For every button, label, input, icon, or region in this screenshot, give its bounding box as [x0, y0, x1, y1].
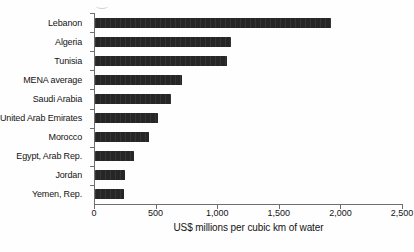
bar-row	[95, 70, 402, 89]
category-label: United Arab Emirates	[0, 108, 88, 127]
bar-row	[95, 32, 402, 51]
y-axis-ticks	[90, 13, 94, 204]
bar	[95, 18, 331, 28]
category-label: Saudi Arabia	[0, 89, 88, 108]
y-tick	[90, 32, 94, 33]
y-tick	[90, 109, 94, 110]
category-label: Lebanon	[0, 13, 88, 32]
x-axis-tick-labels: 05001,0001,5002,0002,500	[94, 208, 402, 219]
y-tick	[90, 70, 94, 71]
y-tick	[90, 166, 94, 167]
y-tick	[90, 89, 94, 90]
x-tick-label: 2,000	[329, 208, 352, 218]
bar-row	[95, 13, 402, 32]
bar-row	[95, 108, 402, 127]
y-tick	[90, 147, 94, 148]
bar-series	[95, 13, 402, 204]
bar-row	[95, 89, 402, 108]
x-tick-label: 0	[91, 208, 96, 218]
bar	[95, 75, 182, 85]
bar	[95, 151, 134, 161]
bar	[95, 94, 171, 104]
category-axis-labels: LebanonAlgeriaTunisiaMENA averageSaudi A…	[0, 13, 88, 204]
category-label: Morocco	[0, 128, 88, 147]
y-tick	[90, 13, 94, 14]
cropped-caption-fragment	[96, 4, 108, 9]
category-label: Algeria	[0, 32, 88, 51]
bar-row	[95, 185, 402, 204]
x-tick-label: 2,500	[391, 208, 414, 218]
category-label: MENA average	[0, 70, 88, 89]
bar	[95, 56, 227, 66]
category-label: Tunisia	[0, 51, 88, 70]
x-tick-label: 1,500	[268, 208, 291, 218]
bar-row	[95, 147, 402, 166]
bar	[95, 37, 231, 47]
bar-row	[95, 51, 402, 70]
y-tick	[90, 185, 94, 186]
x-axis-title: US$ millions per cubic km of water	[94, 222, 403, 233]
water-productivity-bar-chart: LebanonAlgeriaTunisiaMENA averageSaudi A…	[0, 0, 414, 252]
bar	[95, 132, 149, 142]
bar	[95, 189, 124, 199]
bar-row	[95, 166, 402, 185]
bar-row	[95, 128, 402, 147]
category-label: Egypt, Arab Rep.	[0, 147, 88, 166]
category-label: Jordan	[0, 166, 88, 185]
y-tick	[90, 51, 94, 52]
bar	[95, 170, 125, 180]
x-tick-label: 1,000	[206, 208, 229, 218]
y-tick	[90, 128, 94, 129]
x-tick-label: 500	[148, 208, 163, 218]
category-label: Yemen, Rep.	[0, 185, 88, 204]
bar	[95, 113, 158, 123]
